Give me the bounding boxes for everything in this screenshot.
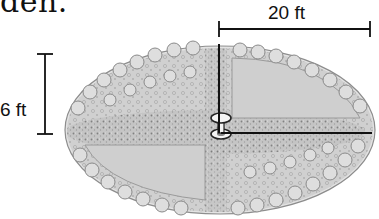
dimension-6ft	[37, 54, 53, 134]
dimension-label-horizontal: 20 ft	[268, 2, 305, 24]
dimension-label-vertical: 6 ft	[0, 99, 26, 121]
garden-diagram	[0, 0, 379, 219]
